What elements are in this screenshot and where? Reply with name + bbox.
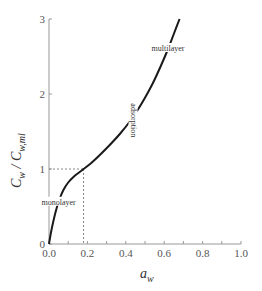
- x-tick-label: 0.2: [81, 247, 95, 259]
- y-axis-label: Cw / Cw,ml: [9, 133, 27, 188]
- annotation-label: monolayer: [41, 198, 76, 207]
- y-tick-label: 2: [40, 88, 46, 100]
- annotation: multilayer: [147, 43, 190, 53]
- x-tick-label: 0.4: [119, 247, 133, 259]
- y-tick-label: 0: [40, 238, 46, 250]
- annotation: monolayer: [39, 197, 78, 207]
- y-tick-label: 3: [40, 13, 46, 25]
- chart: 0.00.20.40.60.81.00123 monolayeradsorpti…: [0, 0, 262, 291]
- x-tick-label: 1.0: [234, 247, 248, 259]
- annotations: monolayeradsorptionmultilayer: [39, 43, 189, 207]
- x-axis-label: aw: [140, 266, 154, 284]
- annotation-label: adsorption: [129, 103, 138, 137]
- x-tick-label: 0.6: [157, 247, 171, 259]
- y-tick-label: 1: [40, 163, 46, 175]
- annotation-label: multilayer: [152, 44, 185, 53]
- axis-labels: aw Cw / Cw,ml: [9, 133, 154, 284]
- x-tick-label: 0.8: [196, 247, 210, 259]
- axes: 0.00.20.40.60.81.00123: [40, 13, 249, 259]
- annotation: adsorption: [129, 99, 138, 142]
